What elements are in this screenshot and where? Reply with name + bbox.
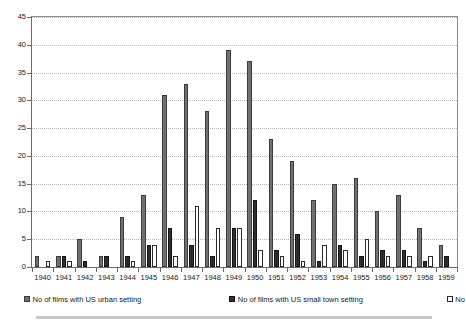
x-tick-label-1957: 1957 — [396, 273, 413, 282]
y-tickmark-15 — [27, 184, 31, 185]
y-tick-label-45: 45 — [18, 13, 26, 21]
bar-smalltown-1950 — [253, 200, 258, 267]
x-tickmark-1954 — [330, 268, 331, 272]
x-axis: 1940194119421943194419451946194719481949… — [32, 268, 457, 284]
bar-urban-1959 — [439, 245, 444, 267]
bar-group-1941 — [53, 17, 74, 267]
y-tickmark-40 — [27, 45, 31, 46]
bar-rural-1957 — [407, 256, 412, 267]
bar-urban-1956 — [375, 211, 380, 267]
bar-urban-1958 — [417, 228, 422, 267]
bar-group-1955 — [351, 17, 372, 267]
bar-group-1956 — [372, 17, 393, 267]
bar-urban-1940 — [35, 256, 40, 267]
x-tick-label-1940: 1940 — [34, 273, 51, 282]
legend-label-urban: No of films with US urban setting — [33, 295, 142, 304]
bar-urban-1949 — [226, 50, 231, 267]
bar-smalltown-1954 — [338, 245, 343, 267]
x-tick-label-1942: 1942 — [77, 273, 94, 282]
legend-item-smalltown[interactable]: No of films with US small town setting — [229, 295, 363, 304]
x-tick-label-1954: 1954 — [332, 273, 349, 282]
bar-rural-1946 — [173, 256, 178, 267]
x-tickmark-1952 — [287, 268, 288, 272]
bar-urban-1945 — [141, 195, 146, 267]
bar-group-1958 — [415, 17, 436, 267]
bar-smalltown-1946 — [168, 228, 173, 267]
bar-urban-1941 — [56, 256, 61, 267]
bar-group-1950 — [245, 17, 266, 267]
x-tick-label-1953: 1953 — [311, 273, 328, 282]
x-tickmark-1947 — [181, 268, 182, 272]
bar-group-1948 — [202, 17, 223, 267]
bar-rural-1958 — [428, 256, 433, 267]
bar-urban-1948 — [205, 111, 210, 267]
bar-smalltown-1955 — [359, 256, 364, 267]
legend-swatch-urban-icon — [24, 296, 30, 302]
bar-group-1946 — [160, 17, 181, 267]
bar-rural-1941 — [67, 261, 72, 267]
bar-rural-1944 — [131, 261, 136, 267]
x-tick-label-1945: 1945 — [141, 273, 158, 282]
y-tick-label-20: 20 — [18, 152, 26, 160]
bar-urban-1946 — [162, 95, 167, 267]
x-tick-label-1944: 1944 — [119, 273, 136, 282]
x-tickmark-1946 — [160, 268, 161, 272]
bar-rural-1947 — [195, 206, 200, 267]
y-tick-label-40: 40 — [18, 41, 26, 49]
bar-group-1957 — [393, 17, 414, 267]
x-tickmark-1943 — [96, 268, 97, 272]
bar-rural-1949 — [237, 228, 242, 267]
bar-smalltown-1956 — [380, 250, 385, 267]
y-tick-label-30: 30 — [18, 96, 26, 104]
bar-rural-1940 — [46, 261, 51, 267]
x-tick-label-1941: 1941 — [56, 273, 73, 282]
x-tick-label-1947: 1947 — [183, 273, 200, 282]
x-tickmark-1942 — [75, 268, 76, 272]
x-tick-label-1958: 1958 — [417, 273, 434, 282]
x-tickmark-1955 — [351, 268, 352, 272]
x-tick-label-1943: 1943 — [98, 273, 115, 282]
bar-urban-1957 — [396, 195, 401, 267]
x-tick-label-1952: 1952 — [289, 273, 306, 282]
bar-urban-1947 — [184, 84, 189, 267]
legend-swatch-rural-icon — [447, 296, 453, 302]
bar-smalltown-1959 — [444, 256, 449, 267]
y-tickmark-30 — [27, 100, 31, 101]
bar-group-1947 — [181, 17, 202, 267]
bar-group-1949 — [223, 17, 244, 267]
bars-layer — [32, 17, 457, 267]
legend-item-rural[interactable]: No of films with US rural setting — [447, 295, 466, 304]
x-tickmark-1956 — [372, 268, 373, 272]
x-tickmark-1944 — [117, 268, 118, 272]
legend-label-rural: No of films with US rural setting — [455, 295, 466, 304]
bar-group-1945 — [138, 17, 159, 267]
bar-rural-1953 — [322, 245, 327, 267]
bar-rural-1956 — [386, 256, 391, 267]
x-tickmark-1959 — [436, 268, 437, 272]
bar-group-1943 — [96, 17, 117, 267]
bar-chart: 051015202530354045 194019411942194319441… — [0, 0, 466, 324]
legend-swatch-smalltown-icon — [229, 296, 235, 302]
bar-urban-1950 — [247, 61, 252, 267]
bar-group-1944 — [117, 17, 138, 267]
bar-rural-1955 — [365, 239, 370, 267]
y-tickmark-10 — [27, 211, 31, 212]
x-tick-label-1956: 1956 — [374, 273, 391, 282]
legend-item-urban[interactable]: No of films with US urban setting — [24, 295, 141, 304]
y-tick-label-0: 0 — [22, 263, 26, 271]
bar-smalltown-1953 — [317, 261, 322, 267]
bar-smalltown-1947 — [189, 245, 194, 267]
bar-group-1954 — [330, 17, 351, 267]
bar-group-1951 — [266, 17, 287, 267]
bar-group-1940 — [32, 17, 53, 267]
x-tick-label-1951: 1951 — [268, 273, 285, 282]
x-tickmark-1941 — [53, 268, 54, 272]
bar-urban-1952 — [290, 161, 295, 267]
y-tick-label-5: 5 — [22, 235, 26, 243]
footer-divider — [36, 316, 432, 319]
bar-smalltown-1944 — [125, 256, 130, 267]
x-tickmark-end — [457, 268, 458, 272]
bar-urban-1953 — [311, 200, 316, 267]
bar-smalltown-1942 — [83, 261, 88, 267]
bar-rural-1954 — [343, 250, 348, 267]
